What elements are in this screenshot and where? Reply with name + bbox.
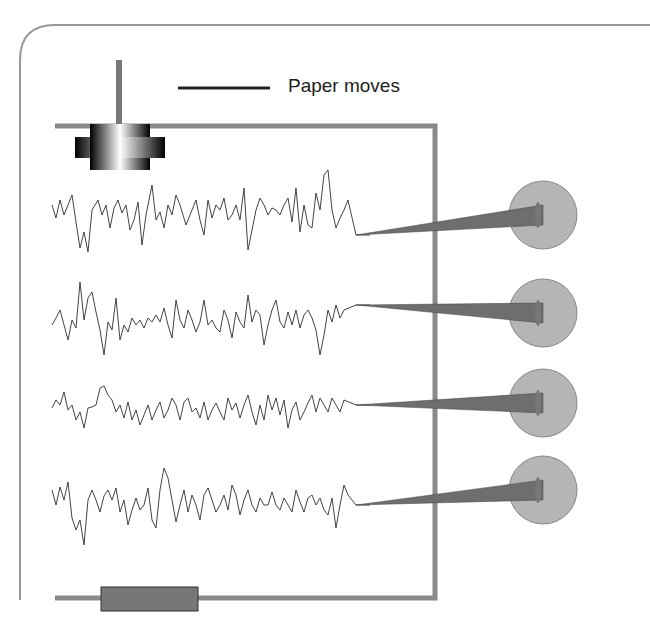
roller-icon [75, 124, 165, 170]
electrode-pen-3 [356, 369, 577, 437]
eeg-trace-1 [52, 170, 370, 252]
roller-shaft [116, 60, 122, 126]
eeg-trace-3 [52, 386, 370, 428]
electrode-pen-2 [356, 279, 577, 347]
eeg-trace-4 [52, 468, 370, 545]
electrode-pen-1 [356, 181, 577, 249]
electrode-pen-4 [356, 456, 577, 524]
motor-box [101, 587, 198, 611]
paper-moves-label: Paper moves [288, 75, 400, 97]
eeg-trace-2 [52, 282, 370, 355]
